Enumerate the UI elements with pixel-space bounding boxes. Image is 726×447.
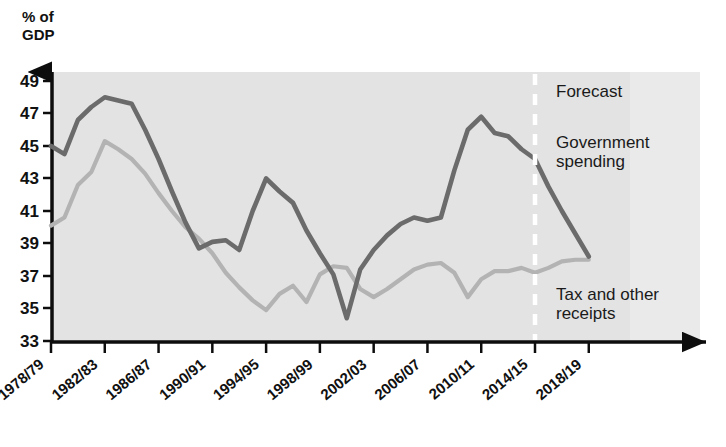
y-tick-label: 49 <box>20 72 39 91</box>
x-tick-label: 1986/87 <box>102 355 154 403</box>
y-tick-label: 47 <box>20 104 39 123</box>
y-tick-label: 43 <box>20 169 39 188</box>
x-tick-label: 2006/07 <box>371 355 423 403</box>
x-tick-label: 1998/99 <box>263 355 315 403</box>
y-axis-title-line1: % of <box>22 8 55 25</box>
x-tick-label: 2002/03 <box>317 355 369 403</box>
government-spending-annotation-line1: Government <box>556 133 650 152</box>
x-tick-label: 2014/15 <box>478 355 530 403</box>
y-tick-label: 39 <box>20 234 39 253</box>
y-axis-title: % of GDP <box>22 8 55 43</box>
y-tick-label: 41 <box>20 202 39 221</box>
y-tick-label: 35 <box>20 299 39 318</box>
y-axis-title-line2: GDP <box>22 26 55 43</box>
chart-page: 33 35 37 39 41 43 45 47 49 % of GDP 1978… <box>0 0 726 447</box>
y-axis-tick-labels: 33 35 37 39 41 43 45 47 49 <box>20 72 39 351</box>
x-tick-label: 1978/79 <box>0 355 47 403</box>
x-axis-tick-labels: 1978/791982/831986/871990/911994/951998/… <box>0 355 585 403</box>
x-tick-label: 1994/95 <box>210 355 262 403</box>
x-tick-label: 1990/91 <box>156 355 208 403</box>
y-tick-label: 45 <box>20 137 39 156</box>
tax-receipts-annotation-line2: receipts <box>556 304 616 323</box>
gdp-line-chart: 33 35 37 39 41 43 45 47 49 % of GDP 1978… <box>0 0 726 447</box>
y-tick-label: 33 <box>20 332 39 351</box>
y-tick-label: 37 <box>20 267 39 286</box>
x-tick-label: 2010/11 <box>425 355 477 402</box>
government-spending-annotation-line2: spending <box>556 152 625 171</box>
forecast-annotation: Forecast <box>556 82 622 101</box>
tax-receipts-annotation-line1: Tax and other <box>556 285 659 304</box>
x-tick-label: 1982/83 <box>48 355 100 403</box>
x-tick-label: 2018/19 <box>532 355 584 403</box>
